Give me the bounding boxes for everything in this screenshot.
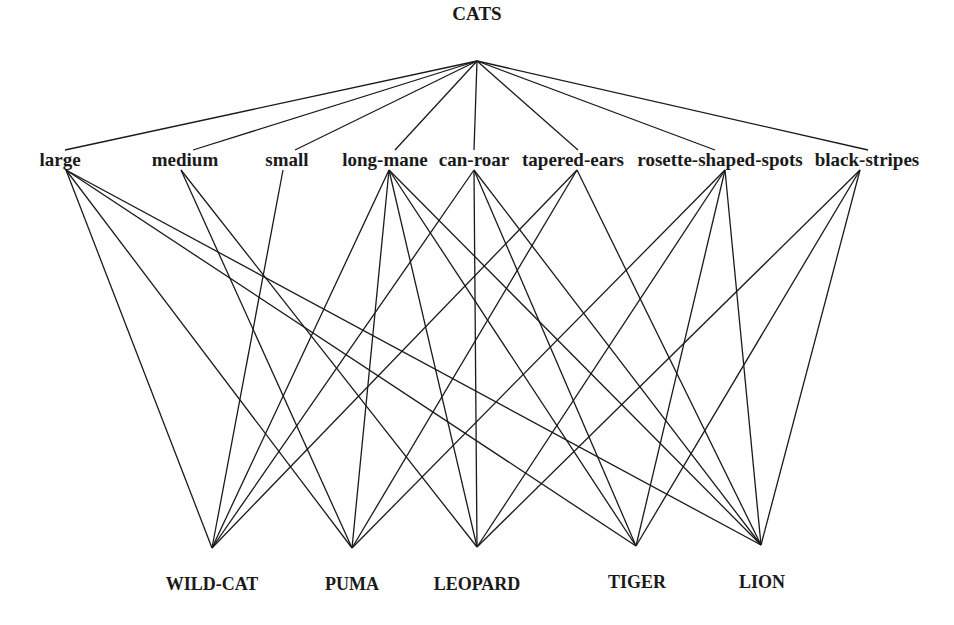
leaf-node-lion: LION (739, 572, 785, 592)
edge-rosette-shaped-spots-tiger (636, 170, 725, 546)
attribute-leaf-edges (66, 170, 860, 548)
root-node-cats: CATS (452, 3, 501, 24)
edge-large-puma (66, 170, 352, 548)
edge-cats-rosette-shaped-spots (477, 61, 715, 150)
edge-long-mane-tiger (389, 170, 636, 546)
edge-cats-large (65, 61, 477, 150)
edge-cats-tapered-ears (477, 61, 578, 150)
attribute-node-tapered-ears: tapered-ears (522, 149, 624, 170)
edge-cats-black-stripes (477, 61, 868, 150)
leaf-node-wild-cat: WILD-CAT (166, 574, 259, 594)
cats-concept-lattice: CATS large medium small long-mane can-ro… (0, 0, 954, 625)
edge-can-roar-wild-cat (212, 170, 474, 548)
edge-rosette-shaped-spots-leopard (477, 170, 725, 547)
leaf-node-puma: PUMA (325, 574, 379, 594)
edge-large-tiger (66, 170, 636, 546)
attribute-node-large: large (39, 149, 80, 170)
edge-small-wild-cat (212, 170, 283, 548)
edge-cats-medium (193, 61, 477, 150)
attribute-node-long-mane: long-mane (342, 149, 428, 170)
edge-black-stripes-lion (761, 170, 860, 545)
edge-long-mane-puma (352, 170, 389, 548)
edge-can-roar-tiger (474, 170, 636, 546)
edge-long-mane-wild-cat (212, 170, 389, 548)
leaf-node-leopard: LEOPARD (434, 574, 521, 594)
edge-cats-can-roar (474, 61, 477, 150)
edge-rosette-shaped-spots-lion (725, 170, 761, 545)
attribute-node-small: small (265, 149, 308, 170)
attribute-node-can-roar: can-roar (439, 149, 510, 170)
edge-can-roar-lion (474, 170, 761, 545)
edge-large-lion (66, 170, 761, 545)
attribute-node-black-stripes: black-stripes (815, 149, 920, 170)
edge-cats-small (295, 61, 477, 150)
edge-long-mane-lion (389, 170, 761, 545)
edge-large-wild-cat (66, 170, 212, 548)
leaf-node-tiger: TIGER (608, 572, 667, 592)
attribute-node-rosette-shaped-spots: rosette-shaped-spots (637, 149, 802, 170)
root-edges (65, 61, 868, 150)
attribute-node-medium: medium (152, 149, 219, 170)
node-labels: CATS large medium small long-mane can-ro… (39, 3, 919, 594)
edge-can-roar-leopard (474, 170, 477, 547)
